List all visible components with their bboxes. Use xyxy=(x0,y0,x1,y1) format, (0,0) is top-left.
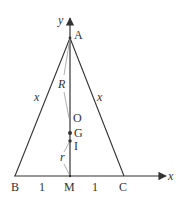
inradius-line-lower xyxy=(64,164,70,176)
label-side-ac: x xyxy=(96,90,103,104)
triangle-diagram: y x A B C M O G I x x 1 1 R r xyxy=(0,0,180,200)
circumradius-line-lower xyxy=(64,92,69,118)
label-o: O xyxy=(73,111,82,125)
label-c: C xyxy=(119,180,127,194)
point-i xyxy=(68,139,71,142)
circumradius-line xyxy=(64,38,70,75)
label-side-ab: x xyxy=(33,90,40,104)
label-g: G xyxy=(74,126,83,140)
label-bm: 1 xyxy=(39,180,45,194)
label-i: I xyxy=(74,139,78,153)
point-g xyxy=(68,131,72,135)
point-a xyxy=(69,37,72,40)
side-ac xyxy=(70,38,124,176)
label-circumradius: R xyxy=(57,77,66,91)
label-inradius: r xyxy=(60,150,65,164)
label-b: B xyxy=(11,180,19,194)
label-m: M xyxy=(64,180,75,194)
label-a: A xyxy=(74,28,83,42)
point-m xyxy=(69,175,71,177)
inradius-line xyxy=(64,141,70,152)
label-mc: 1 xyxy=(92,180,98,194)
x-axis-label: x xyxy=(167,169,174,183)
y-axis-label: y xyxy=(57,13,64,27)
